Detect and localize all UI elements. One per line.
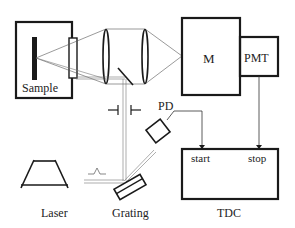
sample-holder (32, 37, 37, 80)
grating-label: Grating (112, 206, 149, 220)
tdc-start-label: start (191, 152, 210, 164)
lens-2 (142, 30, 148, 84)
tdc: start stop (182, 149, 278, 199)
sample-chamber: Sample (16, 22, 77, 98)
pulse-icon (88, 168, 106, 174)
pmt-label: PMT (244, 51, 269, 65)
laser-label: Laser (41, 206, 68, 220)
mirror (118, 68, 133, 85)
pmt: PMT (240, 37, 278, 76)
laser-beam-path (76, 77, 156, 183)
sample-label: Sample (22, 81, 58, 95)
photodiode: PD (146, 99, 174, 143)
laser (21, 160, 68, 188)
aperture (108, 105, 141, 115)
tdc-stop-label: stop (248, 152, 267, 164)
pd-label: PD (158, 99, 174, 113)
monochromator: M (182, 18, 240, 95)
lens-1 (103, 30, 109, 84)
optical-setup-diagram: Sample M PMT (0, 0, 295, 228)
monochromator-label: M (203, 51, 215, 66)
tdc-label: TDC (217, 206, 241, 220)
